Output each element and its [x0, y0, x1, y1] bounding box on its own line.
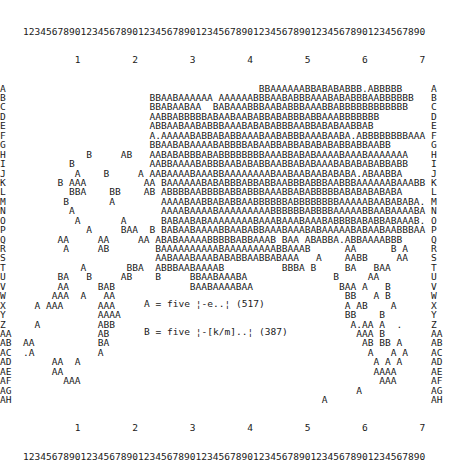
ascii-plot: 1234567890123456789012345678901234567890…	[0, 8, 443, 464]
legend-entry-b: B = five ¦-[k/m]..¦ (387)	[144, 327, 288, 336]
top-ruler-tens: 1 2 3 4 5 6 7	[0, 55, 443, 64]
bottom-ruler-units: 1234567890123456789012345678901234567890…	[0, 452, 443, 461]
bottom-ruler-tens: 1 2 3 4 5 6 7	[0, 423, 443, 432]
top-ruler-units: 1234567890123456789012345678901234567890…	[0, 27, 443, 36]
plot-row-ah: AH A AH	[0, 395, 443, 404]
plot-rows: A BBAAAAAABBABABABBB.ABBBBB AB BBAABAAAA…	[0, 84, 443, 405]
legend: A = five ¦-e..¦ (517) B = five ¦-[k/m]..…	[144, 280, 288, 346]
legend-entry-a: A = five ¦-e..¦ (517)	[144, 299, 288, 308]
